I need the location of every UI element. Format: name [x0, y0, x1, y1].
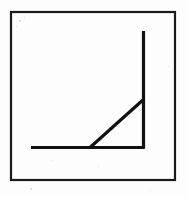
figure-container [0, 0, 187, 197]
figure-background [0, 0, 187, 197]
line-drawing-canvas [0, 0, 187, 197]
